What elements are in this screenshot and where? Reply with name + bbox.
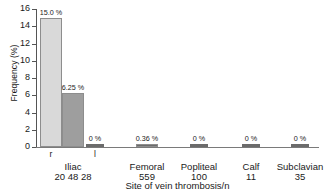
bar-value-label: 0 % xyxy=(277,135,323,143)
x-axis-title: Site of vein thrombosis/n xyxy=(36,180,319,191)
y-axis-tick-label: 10 xyxy=(4,56,30,65)
x-axis-sublabel: r xyxy=(30,150,72,159)
x-axis-category-label: Subclavian xyxy=(255,162,328,172)
plot-area: 15.0 %6.25 %0 %0.36 %0 %0 %0 % xyxy=(36,9,319,147)
y-axis-tick-label: 4 xyxy=(4,108,30,117)
bar-value-label: 0.36 % xyxy=(124,135,170,143)
x-axis-sublabel: l xyxy=(74,150,116,159)
bar[interactable] xyxy=(40,18,62,147)
bar-value-label: 0 % xyxy=(176,135,222,143)
y-axis-tick-label: 8 xyxy=(4,73,30,82)
y-axis-tick-label: 16 xyxy=(4,4,30,13)
y-axis-tick-label: 0 xyxy=(4,142,30,151)
y-axis-tick-label: 12 xyxy=(4,39,30,48)
bar-value-label: 6.25 % xyxy=(50,84,96,92)
x-axis-line xyxy=(36,147,319,148)
y-axis-tick-label: 14 xyxy=(4,21,30,30)
y-axis-tick-label: 6 xyxy=(4,90,30,99)
bar-value-label: 0 % xyxy=(72,135,118,143)
bar-value-label: 0 % xyxy=(228,135,274,143)
y-axis-tick-label: 2 xyxy=(4,125,30,134)
bar-value-label: 15.0 % xyxy=(28,9,74,17)
